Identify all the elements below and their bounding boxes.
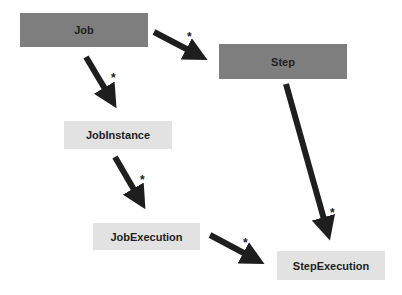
multiplicity-star: * <box>187 30 192 44</box>
edge-jobinstance-jobexecution: * <box>115 157 145 200</box>
multiplicity-star: * <box>111 71 116 85</box>
node-label: Step <box>271 56 295 68</box>
edge-job-step: * <box>154 30 198 55</box>
node-label: JobExecution <box>110 231 182 243</box>
node-jobinstance: JobInstance <box>64 121 172 149</box>
node-step: Step <box>219 44 347 79</box>
edge-jobexecution-stepexecution: * <box>210 235 255 259</box>
node-label: Job <box>74 24 94 36</box>
multiplicity-star: * <box>330 206 335 220</box>
node-job: Job <box>20 13 148 47</box>
node-jobexecution: JobExecution <box>93 223 200 250</box>
node-stepexecution: StepExecution <box>277 251 385 280</box>
multiplicity-star: * <box>140 173 145 187</box>
edge-step-stepexecution: * <box>286 84 335 230</box>
node-label: JobInstance <box>86 129 150 141</box>
edge-job-jobinstance: * <box>86 57 116 99</box>
node-label: StepExecution <box>293 260 369 272</box>
multiplicity-star: * <box>243 236 248 250</box>
